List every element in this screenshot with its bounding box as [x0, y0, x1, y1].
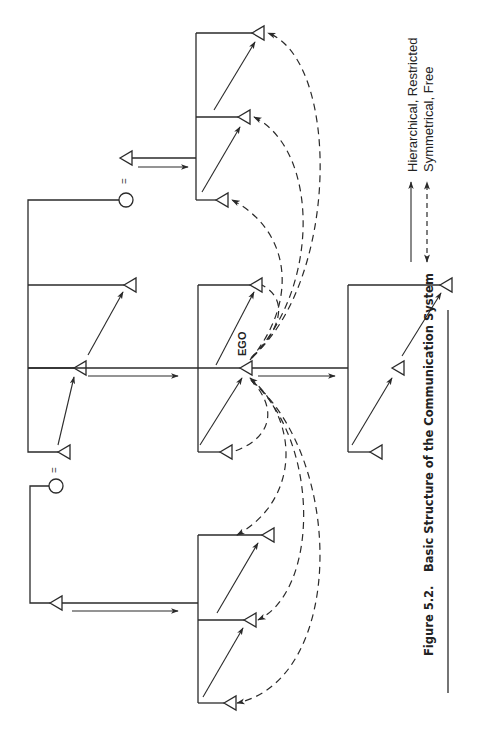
person-triangle	[252, 26, 264, 40]
marriage-symbol: =	[49, 467, 60, 473]
kin-group-right	[348, 278, 452, 459]
person-triangle	[58, 445, 70, 459]
person-triangle	[238, 110, 250, 124]
legend: Hierarchical, Restricted Symmetrical, Fr…	[405, 38, 436, 262]
communication-structure-diagram: = =	[0, 0, 477, 738]
marriage-upper: =	[28, 178, 133, 368]
person-circle	[119, 193, 133, 207]
legend-item-symmetrical: Symmetrical, Free	[421, 67, 436, 262]
person-circle	[49, 479, 63, 493]
ego-triangle	[240, 361, 252, 375]
figure-number: Figure 5.2.	[422, 586, 436, 656]
person-triangle	[244, 613, 256, 627]
marriage-symbol: =	[119, 178, 130, 184]
person-triangle	[250, 278, 262, 292]
person-triangle	[120, 151, 132, 165]
kin-group-lower	[198, 528, 274, 710]
person-triangle	[262, 528, 274, 542]
legend-label-symmetrical: Symmetrical, Free	[421, 67, 436, 172]
person-triangle	[370, 445, 382, 459]
kin-group-upper	[120, 26, 264, 207]
person-triangle	[440, 278, 452, 292]
person-triangle	[224, 696, 236, 710]
person-triangle	[392, 361, 404, 375]
person-triangle	[124, 278, 136, 292]
kin-group-ego: EGO	[28, 278, 348, 459]
figure-caption: Figure 5.2. Basic Structure of the Commu…	[422, 273, 448, 693]
person-triangle	[50, 596, 62, 610]
person-triangle	[216, 193, 228, 207]
figure-title: Basic Structure of the Communication Sys…	[422, 273, 436, 572]
ego-label: EGO	[236, 331, 248, 356]
svg-text:Figure 5.2. Basic Struct: Figure 5.2. Basic Structure of the Commu…	[422, 273, 436, 656]
person-triangle	[220, 445, 232, 459]
marriage-lower: =	[30, 467, 198, 611]
legend-item-hierarchical: Hierarchical, Restricted	[405, 38, 420, 262]
legend-label-hierarchical: Hierarchical, Restricted	[405, 38, 420, 172]
